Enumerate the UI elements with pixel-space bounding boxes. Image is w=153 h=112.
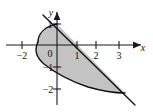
y-axis-arrow (54, 12, 61, 20)
y-tick-label-minus1: −1 (43, 62, 54, 73)
x-tick-label-minus2: −2 (17, 50, 28, 61)
figure-container: x y 0 −2 1 2 3 1 −1 −2 (0, 0, 153, 112)
x-axis-label: x (140, 42, 146, 53)
x-tick-label-2: 2 (94, 50, 99, 61)
x-tick-label-3: 3 (117, 50, 122, 61)
x-tick-label-1: 1 (75, 50, 80, 61)
y-axis-label: y (48, 7, 54, 18)
origin-label: 0 (48, 48, 53, 59)
graph-canvas: x y 0 −2 1 2 3 1 −1 −2 (0, 0, 153, 112)
y-tick-label-minus2: −2 (43, 84, 54, 95)
y-tick-label-1: 1 (48, 19, 53, 30)
